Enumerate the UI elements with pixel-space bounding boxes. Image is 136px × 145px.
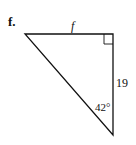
right-triangle-figure <box>0 0 136 145</box>
triangle-outline <box>25 34 113 135</box>
angle-label-42: 42° <box>95 102 110 113</box>
problem-label: f. <box>8 15 16 28</box>
right-angle-marker-icon <box>104 34 113 44</box>
side-label-f: f <box>71 20 74 32</box>
side-label-19: 19 <box>116 77 128 89</box>
